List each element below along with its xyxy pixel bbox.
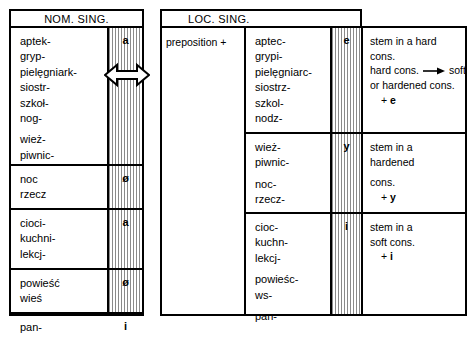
rule-change-after: soft <box>449 64 466 76</box>
loc-rule-text-3: stem in a soft cons. + i <box>363 214 465 264</box>
word-item: piwnic- <box>20 148 107 163</box>
nom-section-3-wordlist: cioci- kuchni- lekcj- <box>11 210 107 262</box>
rule-line: soft cons. <box>370 235 461 250</box>
rule-line: hardened <box>370 155 461 170</box>
word-item: kuchni- <box>20 231 107 246</box>
word-item: wież- <box>20 132 107 147</box>
rule-plus-ending: i <box>390 250 393 262</box>
rule-change-before: hard cons. <box>370 64 419 76</box>
word-item: wież- <box>255 140 330 155</box>
loc-ending-label: i <box>345 220 348 232</box>
nom-section-4-words: powieść wieś <box>11 270 107 314</box>
loc-section-1-words: aptec- grypi- pielęgniarc- siostrz- szko… <box>246 28 330 134</box>
rule-line: stem in a <box>370 140 461 155</box>
nom-ending-cell: ø <box>109 166 142 210</box>
loc-section-2-words: wież- piwnic- noc- rzecz- <box>246 134 330 214</box>
nom-section-5-wordlist: pan- <box>11 314 107 335</box>
nom-ending-label: i <box>124 320 127 332</box>
loc-preposition-label: preposition + <box>162 28 244 48</box>
double-headed-horizontal-arrow-icon <box>104 62 150 88</box>
nom-ending-cell: a <box>109 28 142 166</box>
word-item: rzecz- <box>255 192 330 207</box>
loc-ending-label: e <box>343 34 349 46</box>
word-item: ws- <box>255 288 330 303</box>
word-item: lekcj- <box>255 251 330 266</box>
loc-rule-cell-3: stem in a soft cons. + i <box>363 214 465 337</box>
loc-section-3-words: cioc- kuchn- lekcj- powieśc- ws- pan- <box>246 214 330 337</box>
loc-ending-cell: e <box>332 28 361 134</box>
nom-section-3-words: cioci- kuchni- lekcj- <box>11 210 107 270</box>
word-item: pan- <box>20 320 107 335</box>
nom-ending-label: a <box>122 216 128 228</box>
rule-line: cons. <box>370 49 461 64</box>
word-item: lekcj- <box>20 247 107 262</box>
word-item: noc- <box>255 177 330 192</box>
nom-section-5-words: pan- <box>11 314 107 337</box>
nom-section-1-words: aptek- gryp- pielęgniark- siostr- szkoł-… <box>11 28 107 166</box>
word-item: pielęgniarc- <box>255 65 330 80</box>
loc-ending-cell: y <box>332 134 361 214</box>
rule-plus: + i <box>370 249 461 264</box>
word-item: siostrz- <box>255 80 330 95</box>
word-item: szkoł- <box>20 96 107 111</box>
word-item: szkol- <box>255 96 330 111</box>
word-item: pielęgniark- <box>20 65 107 80</box>
loc-rule-column: stem in a hard cons. hard cons.soft or h… <box>363 28 465 314</box>
nom-words-column: aptek- gryp- pielęgniark- siostr- szkoł-… <box>11 28 107 314</box>
loc-ending-cell: i <box>332 214 361 337</box>
rule-line: stem in a hard <box>370 34 461 49</box>
right-arrow-icon <box>423 64 445 79</box>
word-item: cioc- <box>255 220 330 235</box>
word-item: cioci- <box>20 216 107 231</box>
rule-change-line: hard cons.soft <box>370 63 461 78</box>
word-item: powieśc- <box>255 272 330 287</box>
rule-plus: + e <box>370 93 461 108</box>
word-item: siostr- <box>20 80 107 95</box>
nom-ending-cell: ø <box>109 270 142 314</box>
rule-change-line2: or hardened cons. <box>370 78 461 93</box>
word-item: nodz- <box>255 111 330 126</box>
word-item: kuchn- <box>255 235 330 250</box>
nom-ending-label: ø <box>122 276 129 288</box>
nom-section-2-wordlist: noc rzecz <box>11 166 107 203</box>
rule-line: cons. <box>370 175 461 190</box>
nom-section-4-wordlist: powieść wieś <box>11 270 107 307</box>
loc-rule-text-2: stem in a hardened cons. + y <box>363 134 465 204</box>
nom-ending-label: ø <box>122 172 129 184</box>
loc-rule-cell-1: stem in a hard cons. hard cons.soft or h… <box>363 28 465 134</box>
loc-sing-table: preposition + aptec- grypi- pielęgniarc-… <box>160 26 467 316</box>
loc-preposition-column: preposition + <box>162 28 244 314</box>
nom-sing-header-label: NOM. SING. <box>44 13 109 25</box>
word-item: gryp- <box>20 49 107 64</box>
nom-section-2-words: noc rzecz <box>11 166 107 210</box>
nom-ending-label: a <box>122 34 128 46</box>
nom-ending-cell: a <box>109 210 142 270</box>
loc-section-3-wordlist: cioc- kuchn- lekcj- powieśc- ws- pan- <box>246 214 330 324</box>
word-item: powieść <box>20 276 107 291</box>
word-item: nog- <box>20 111 107 126</box>
rule-plus-ending: y <box>390 191 396 203</box>
word-item: piwnic- <box>255 155 330 170</box>
word-item: aptek- <box>20 34 107 49</box>
nom-section-1-wordlist: aptek- gryp- pielęgniark- siostr- szkoł-… <box>11 28 107 163</box>
loc-section-2-wordlist: wież- piwnic- noc- rzecz- <box>246 134 330 208</box>
loc-sing-header-label: LOC. SING. <box>188 13 250 25</box>
loc-rule-cell-2: stem in a hardened cons. + y <box>363 134 465 214</box>
word-item: aptec- <box>255 34 330 49</box>
word-item: rzecz <box>20 187 107 202</box>
rule-line: stem in a <box>370 220 461 235</box>
rule-plus: + y <box>370 190 461 205</box>
loc-ending-column: e y i <box>332 28 361 314</box>
word-item: pan- <box>255 309 330 324</box>
word-item: wieś <box>20 291 107 306</box>
word-item: noc <box>20 172 107 187</box>
rule-plus-ending: e <box>390 94 396 106</box>
loc-words-column: aptec- grypi- pielęgniarc- siostrz- szko… <box>246 28 330 314</box>
word-item: grypi- <box>255 49 330 64</box>
loc-section-1-wordlist: aptec- grypi- pielęgniarc- siostrz- szko… <box>246 28 330 126</box>
nom-ending-cell: i <box>109 314 142 337</box>
loc-ending-label: y <box>343 140 349 152</box>
loc-rule-text-1: stem in a hard cons. hard cons.soft or h… <box>363 28 465 107</box>
